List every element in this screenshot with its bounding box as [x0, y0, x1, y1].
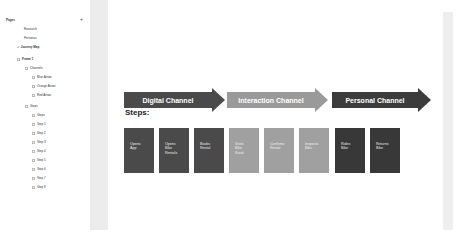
- step-card-5[interactable]: Confirms Rental: [264, 128, 294, 173]
- step-card-4[interactable]: Visits Bike Kiosk: [229, 128, 259, 173]
- arrow-head-icon: [315, 88, 328, 112]
- layer-blue-arrow[interactable]: Blue Arrow: [32, 75, 52, 79]
- arrow-head-icon: [212, 88, 225, 112]
- layer-channels[interactable]: Channels: [25, 66, 43, 70]
- plus-icon[interactable]: +: [80, 17, 83, 22]
- text-icon: [32, 114, 35, 117]
- design-app: Pages + Research Personas ✓ Journey Map …: [0, 0, 465, 242]
- arrow-head-icon: [418, 88, 431, 112]
- step-card-6[interactable]: Inspects Bike: [299, 128, 329, 173]
- step-card-8[interactable]: Returns Bike: [370, 128, 400, 173]
- frame-icon: [17, 58, 20, 61]
- layer-step-5[interactable]: Step 5: [32, 158, 46, 162]
- channel-arrow-personal[interactable]: Personal Channel: [332, 88, 431, 112]
- channel-arrow-interaction[interactable]: Interaction Channel: [227, 88, 328, 112]
- shape-icon: [32, 168, 35, 171]
- channel-label-interaction: Interaction Channel: [227, 92, 315, 108]
- layer-step-7[interactable]: Step 7: [32, 176, 46, 180]
- group-icon: [25, 105, 28, 108]
- shape-icon: [32, 76, 35, 79]
- shape-icon: [32, 150, 35, 153]
- channel-label-digital: Digital Channel: [124, 92, 212, 108]
- layer-step-1[interactable]: Step 1: [32, 122, 46, 126]
- layer-step-6[interactable]: Step 6: [32, 167, 46, 171]
- shape-icon: [32, 94, 35, 97]
- layer-step-4[interactable]: Step 4: [32, 149, 46, 153]
- group-icon: [25, 67, 28, 70]
- page-item-research[interactable]: Research: [24, 27, 37, 31]
- shape-icon: [32, 132, 35, 135]
- layer-step-3[interactable]: Step 3: [32, 140, 46, 144]
- page-item-personas[interactable]: Personas: [24, 36, 37, 40]
- shape-icon: [32, 85, 35, 88]
- shape-icon: [32, 159, 35, 162]
- shape-icon: [32, 123, 35, 126]
- layer-orange-arrow[interactable]: Orange Arrow: [32, 84, 56, 88]
- layer-step-2[interactable]: Step 2: [32, 131, 46, 135]
- shape-icon: [32, 186, 35, 189]
- pages-header: Pages: [6, 18, 15, 22]
- layer-step-8[interactable]: Step 8: [32, 185, 46, 189]
- canvas-background-right: [443, 12, 453, 230]
- layers-sidebar: Pages + Research Personas ✓ Journey Map …: [0, 0, 90, 242]
- channel-label-personal: Personal Channel: [332, 92, 418, 108]
- layer-steps-text[interactable]: Steps: [32, 113, 45, 117]
- page-item-journey-map[interactable]: ✓ Journey Map: [17, 45, 39, 49]
- step-card-1[interactable]: Opens App: [124, 128, 154, 173]
- step-card-7[interactable]: Rides Bike: [335, 128, 365, 173]
- shape-icon: [32, 177, 35, 180]
- steps-heading: Steps:: [125, 108, 149, 117]
- shape-icon: [32, 141, 35, 144]
- layer-steps-group[interactable]: Steps: [25, 104, 38, 108]
- canvas-background-left: [90, 0, 108, 230]
- step-card-3[interactable]: Books Rental: [194, 128, 224, 173]
- layer-red-arrow[interactable]: Red Arrow: [32, 93, 51, 97]
- step-card-2[interactable]: Opens Bike Rentals: [159, 128, 189, 173]
- layer-frame-1[interactable]: Frame 1: [17, 57, 34, 61]
